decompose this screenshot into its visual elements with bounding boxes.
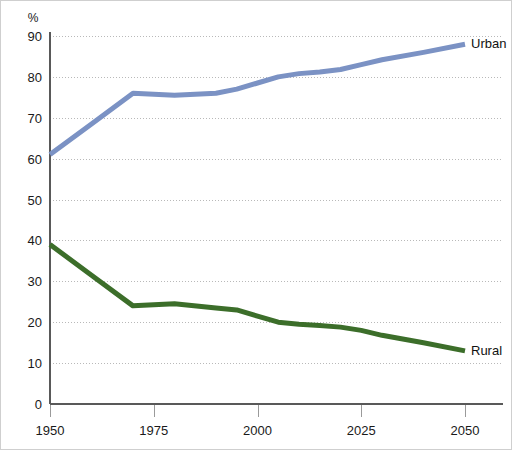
x-tick-label-1950: 1950 [36, 423, 65, 438]
y-tick-label-20: 20 [28, 315, 42, 330]
x-tick-label-2000: 2000 [243, 423, 272, 438]
chart-canvas: 0102030405060708090 19501975200020252050… [0, 0, 512, 450]
x-tick-label-1975: 1975 [139, 423, 168, 438]
series-label-urban: Urban [471, 36, 506, 51]
y-tick-label-80: 80 [28, 70, 42, 85]
y-tick-label-0: 0 [35, 397, 42, 412]
line-chart: 0102030405060708090 19501975200020252050… [0, 0, 512, 450]
y-axis-unit-label: % [28, 11, 39, 25]
y-tick-label-10: 10 [28, 356, 42, 371]
y-tick-label-50: 50 [28, 193, 42, 208]
series-label-rural: Rural [471, 343, 502, 358]
y-tick-label-40: 40 [28, 233, 42, 248]
y-tick-label-60: 60 [28, 152, 42, 167]
y-tick-label-70: 70 [28, 111, 42, 126]
y-tick-label-90: 90 [28, 29, 42, 44]
x-tick-label-2025: 2025 [347, 423, 376, 438]
x-tick-label-2050: 2050 [451, 423, 480, 438]
y-tick-label-30: 30 [28, 274, 42, 289]
chart-background [0, 0, 512, 450]
